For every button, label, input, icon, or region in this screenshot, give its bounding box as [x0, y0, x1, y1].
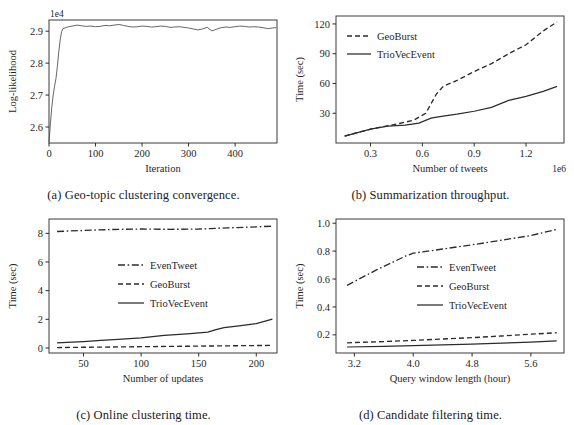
panel-c: 0246850100150200Number of updatesTime (s…: [0, 205, 287, 425]
x-tick-label: 4.8: [466, 358, 479, 369]
legend-label-eventweet: EvenTweet: [150, 260, 197, 271]
legend-label-eventweet: EvenTweet: [449, 262, 496, 273]
x-tick-label: 4.0: [407, 358, 420, 369]
panel-d: 0.20.40.60.81.03.24.04.85.6Query window …: [287, 205, 574, 425]
legend-label-triovecevent: TrioVecEvent: [377, 49, 435, 60]
legend-label-geoburst: GeoBurst: [377, 31, 417, 42]
series-line-triovecevent: [57, 319, 272, 343]
x-axis-label: Query window length (hour): [390, 373, 511, 385]
panel-b-plot: 3060901200.30.60.91.2Number of tweetsTim…: [287, 0, 574, 188]
panel-c-plot: 0246850100150200Number of updatesTime (s…: [0, 205, 287, 408]
x-tick-label: 150: [191, 358, 207, 369]
y-tick-label: 0.6: [317, 274, 330, 285]
x-tick-label: 200: [248, 358, 264, 369]
series-line-eventweet: [57, 226, 272, 231]
y-tick-label: 4: [38, 285, 44, 296]
legend-label-triovecevent: TrioVecEvent: [150, 298, 208, 309]
y-tick-label: 2: [38, 314, 43, 325]
y-tick-label: 6: [38, 257, 43, 268]
panel-c-caption: (c) Online clustering time.: [76, 408, 211, 425]
y-exponent-label: 1e4: [50, 9, 64, 19]
y-tick-label: 2.8: [30, 58, 43, 69]
x-axis-label: Number of tweets: [412, 163, 487, 174]
y-tick-label: 2.7: [30, 90, 43, 101]
x-tick-label: 3.2: [348, 358, 361, 369]
x-tick-label: 5.6: [524, 358, 537, 369]
panel-a-caption: (a) Geo-topic clustering convergence.: [47, 188, 239, 205]
x-tick-label: 100: [88, 148, 104, 159]
legend-label-geoburst: GeoBurst: [150, 279, 190, 290]
y-tick-label: 0.8: [317, 246, 330, 257]
series-line-log-likelihood: [49, 24, 276, 142]
panel-b-caption: (b) Summarization throughput.: [351, 188, 509, 205]
series-line-geoburst: [347, 333, 557, 343]
y-axis-label: Log-likelihood: [7, 49, 18, 113]
y-tick-label: 0: [38, 343, 43, 354]
series-line-triovecevent: [345, 86, 557, 136]
panel-a: 2.62.72.82.90100200300400IterationLog-li…: [0, 0, 287, 205]
x-tick-label: 1.2: [519, 148, 532, 159]
panel-a-plot: 2.62.72.82.90100200300400IterationLog-li…: [0, 0, 287, 188]
figure-container: 2.62.72.82.90100200300400IterationLog-li…: [0, 0, 574, 425]
x-tick-label: 0.9: [468, 148, 481, 159]
x-tick-label: 50: [78, 358, 89, 369]
y-axis-label: Time (sec): [294, 57, 306, 102]
chart-d: 0.20.40.60.81.03.24.04.85.6Query window …: [287, 205, 574, 401]
chart-a: 2.62.72.82.90100200300400IterationLog-li…: [0, 0, 287, 182]
x-tick-label: 400: [227, 148, 243, 159]
x-tick-label: 0: [46, 148, 51, 159]
legend-label-geoburst: GeoBurst: [449, 281, 489, 292]
panel-d-caption: (d) Candidate filtering time.: [359, 408, 502, 425]
series-line-triovecevent: [347, 341, 557, 347]
panel-b: 3060901200.30.60.91.2Number of tweetsTim…: [287, 0, 574, 205]
y-axis-label: Time (sec): [7, 263, 19, 308]
panel-d-plot: 0.20.40.60.81.03.24.04.85.6Query window …: [287, 205, 574, 408]
x-tick-label: 0.3: [364, 148, 377, 159]
y-tick-label: 60: [320, 78, 331, 89]
y-tick-label: 0.4: [317, 302, 331, 313]
x-tick-label: 300: [181, 148, 197, 159]
y-tick-label: 120: [314, 19, 330, 30]
y-axis-label: Time (sec): [294, 263, 306, 308]
x-tick-label: 100: [133, 358, 149, 369]
y-tick-label: 8: [38, 228, 43, 239]
x-exponent-label: 1e6: [552, 164, 566, 174]
series-line-eventweet: [347, 229, 557, 285]
y-tick-label: 1.0: [317, 218, 330, 229]
x-tick-label: 0.6: [416, 148, 429, 159]
x-tick-label: 200: [134, 148, 150, 159]
y-tick-label: 2.6: [30, 122, 43, 133]
x-axis-label: Number of updates: [123, 373, 203, 384]
y-tick-label: 30: [320, 108, 331, 119]
series-line-geoburst: [57, 345, 272, 347]
x-axis-label: Iteration: [145, 163, 181, 174]
y-tick-label: 2.9: [30, 26, 43, 37]
y-tick-label: 90: [320, 48, 331, 59]
legend-label-triovecevent: TrioVecEvent: [449, 300, 507, 311]
y-tick-label: 0.2: [317, 329, 330, 340]
chart-c: 0246850100150200Number of updatesTime (s…: [0, 205, 287, 401]
chart-b: 3060901200.30.60.91.2Number of tweetsTim…: [287, 0, 574, 182]
